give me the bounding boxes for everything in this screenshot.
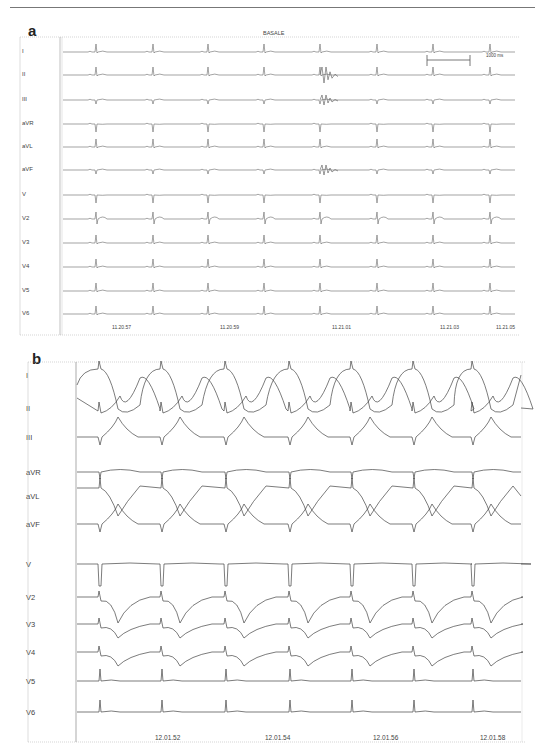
- ecg-traces: [0, 0, 550, 752]
